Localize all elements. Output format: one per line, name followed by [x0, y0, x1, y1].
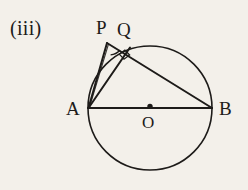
center-dot-O — [147, 104, 152, 109]
part-label: (iii) — [10, 18, 42, 38]
point-label-P: P — [96, 18, 107, 37]
point-label-A: A — [66, 99, 80, 118]
point-label-B: B — [219, 99, 232, 118]
point-label-O: O — [142, 114, 154, 131]
segment-AP — [89, 43, 108, 108]
segment-AQ — [89, 48, 131, 109]
segment-PB — [107, 43, 212, 108]
segment-AP-ink-overlap — [90, 44, 109, 107]
geometry-figure: (iii) P Q A B O — [0, 0, 248, 190]
point-label-Q: Q — [117, 20, 131, 39]
